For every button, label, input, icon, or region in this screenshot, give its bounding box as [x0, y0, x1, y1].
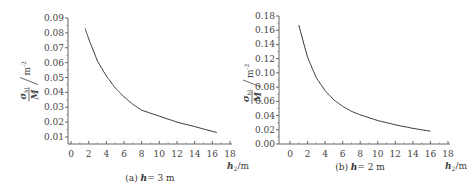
svg-text:σh1: σh1 [241, 89, 252, 102]
x-tick-label: 6 [340, 149, 346, 159]
y-tick-label: 0.08 [44, 28, 64, 38]
y-tick-label: 0.12 [255, 54, 275, 64]
chart-panel-b: 0.180.160.140.120.100.080.060.040.020.00… [241, 11, 467, 172]
x-tick-label: 18 [442, 149, 454, 159]
y-tick-label: 0.01 [44, 132, 64, 142]
x-tick-label: 12 [390, 149, 401, 159]
data-curve [299, 25, 431, 131]
svg-text:M: M [253, 91, 263, 103]
y-tick-label: 0.02 [255, 125, 275, 135]
x-tick-label: 0 [68, 149, 74, 159]
data-curve [85, 28, 217, 132]
x-tick-label: 14 [189, 149, 201, 159]
y-tick-label: 0.08 [255, 82, 275, 92]
svg-text:m-2: m-2 [243, 63, 255, 78]
x-tick-label: 18 [224, 149, 236, 159]
y-tick-label: 0.14 [255, 39, 275, 49]
x-tick-label: 16 [207, 149, 219, 159]
x-tick-label: 2 [305, 149, 311, 159]
y-tick-label: 0.05 [44, 73, 64, 83]
y-tick-label: 0.04 [44, 87, 64, 97]
x-tick-label: 8 [139, 149, 145, 159]
x-tick-label: 4 [103, 149, 109, 159]
svg-text:σh1: σh1 [18, 86, 29, 99]
x-axis-label: h2/m [445, 161, 467, 172]
figure: 0.090.080.070.060.050.040.030.020.010246… [0, 0, 476, 192]
x-tick-label: 12 [171, 149, 182, 159]
y-tick-label: 0.09 [44, 13, 64, 23]
x-tick-label: 14 [407, 149, 419, 159]
y-tick-label: 0.02 [44, 117, 64, 127]
y-tick-label: 0.07 [44, 43, 64, 53]
chart-panel-a: 0.090.080.070.060.050.040.030.020.010246… [18, 13, 249, 183]
x-axis-label: h2/m [227, 161, 249, 172]
svg-text:M: M [30, 89, 40, 101]
y-tick-label: 0.18 [255, 11, 275, 21]
x-tick-label: 6 [121, 149, 127, 159]
y-tick-label: 0.03 [44, 102, 64, 112]
x-tick-label: 0 [287, 149, 293, 159]
y-axis-label: σh1Mm-2 [18, 61, 40, 102]
caption: (a) h= 3 m [125, 173, 175, 183]
y-tick-label: 0.04 [255, 111, 275, 121]
y-tick-label: 0.06 [44, 58, 64, 68]
svg-text:m-2: m-2 [20, 61, 32, 76]
caption: (b) h= 2 m [335, 162, 385, 172]
x-tick-label: 10 [154, 149, 166, 159]
y-tick-label: 0.10 [255, 68, 275, 78]
x-tick-label: 10 [372, 149, 384, 159]
x-tick-label: 4 [322, 149, 328, 159]
y-tick-label: 0.16 [255, 25, 275, 35]
x-tick-label: 2 [86, 149, 92, 159]
y-tick-label: 0.00 [255, 139, 275, 149]
x-tick-label: 8 [357, 149, 363, 159]
x-tick-label: 16 [425, 149, 437, 159]
